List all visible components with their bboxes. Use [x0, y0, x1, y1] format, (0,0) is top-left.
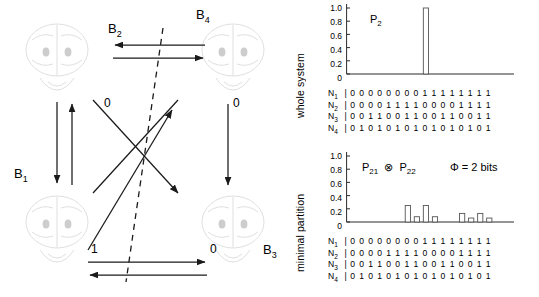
- state-row: N3|0011001100110011: [328, 259, 493, 271]
- state-row: N2|0000111100001111: [328, 248, 493, 260]
- state-row-bits: 0101010101010101: [348, 271, 493, 283]
- ytick-0-6: 0.6: [330, 180, 342, 189]
- node-label-b2-text: B: [108, 21, 117, 36]
- edge-label-top-right: 0: [233, 97, 240, 109]
- ytick-0: 0: [337, 74, 342, 83]
- bar: [414, 217, 419, 222]
- annotation-p2-sub: 2: [377, 19, 381, 28]
- ytick-0-4: 0.4: [330, 194, 342, 203]
- state-row-bits: 0101010101010101: [348, 123, 493, 135]
- annotation-p22-sub: 22: [407, 167, 416, 176]
- state-row: N3|0011001100110011: [328, 111, 493, 123]
- state-row: N2|0000111100001111: [328, 100, 493, 112]
- state-row: N1|0000000011111111: [328, 88, 493, 100]
- plots-panel: whole system 1.0 0.8 0.6 0.4 0.2 0 P2 N1…: [292, 0, 539, 297]
- bar: [478, 213, 483, 222]
- network-diagram-panel: B2 B4 B1 B3 0 0 1 0: [0, 0, 292, 297]
- node-label-b1-text: B: [14, 166, 23, 181]
- bar: [423, 8, 428, 74]
- ytick-0-8: 0.8: [330, 166, 342, 175]
- edge-label-bottom-right: 0: [210, 243, 217, 255]
- chart-minimal-partition-yticks: 1.0 0.8 0.6 0.4 0.2 0: [316, 156, 342, 228]
- state-row: N4|0101010101010101: [328, 123, 493, 135]
- state-row: N4|0101010101010101: [328, 271, 493, 283]
- node-label-b3-sub: 3: [272, 250, 277, 260]
- state-row-bits: 0000000011111111: [348, 236, 493, 248]
- node-label-b2-sub: 2: [117, 29, 122, 39]
- node-label-b4: B4: [196, 8, 210, 25]
- chart-minimal-partition-axis-title: minimal partition: [294, 160, 306, 272]
- node-label-b1-sub: 1: [23, 174, 28, 184]
- chart-whole-system-annotation: P2: [370, 14, 382, 28]
- ytick-1-0: 1.0: [330, 4, 342, 13]
- bar: [423, 206, 428, 223]
- state-table-minimal-partition: N1|0000000011111111N2|0000111100001111N3…: [328, 236, 493, 282]
- node-label-b3: B3: [263, 243, 277, 260]
- ytick-1-0: 1.0: [330, 152, 342, 161]
- edge-label-top-left: 0: [104, 97, 111, 109]
- bar: [432, 217, 437, 222]
- chart-whole-system: whole system 1.0 0.8 0.6 0.4 0.2 0 P2 N1…: [292, 0, 539, 148]
- chart-minimal-partition-annotation: P21 ⊗ P22: [362, 162, 416, 176]
- tensor-product-icon: ⊗: [384, 161, 393, 173]
- ytick-0-8: 0.8: [330, 18, 342, 27]
- ytick-0: 0: [337, 222, 342, 231]
- node-label-b4-text: B: [196, 7, 205, 22]
- node-label-b4-sub: 4: [205, 15, 210, 25]
- state-row-bits: 0000111100001111: [348, 100, 493, 112]
- bar: [460, 213, 465, 222]
- ytick-0-2: 0.2: [330, 208, 342, 217]
- annotation-p21-sub: 21: [369, 167, 378, 176]
- node-label-b1: B1: [14, 167, 28, 184]
- node-label-b2: B2: [108, 22, 122, 39]
- state-row-bits: 0000111100001111: [348, 248, 493, 260]
- ytick-0-2: 0.2: [330, 60, 342, 69]
- edge-label-bottom-left: 1: [91, 243, 98, 255]
- bar: [469, 218, 474, 222]
- bar: [405, 206, 410, 223]
- bar: [487, 218, 492, 222]
- ytick-0-4: 0.4: [330, 46, 342, 55]
- state-row-bits: 0011001100110011: [348, 111, 493, 123]
- state-row-bits: 0000000011111111: [348, 88, 493, 100]
- chart-whole-system-yticks: 1.0 0.8 0.6 0.4 0.2 0: [316, 8, 342, 80]
- chart-whole-system-axis-title: whole system: [294, 18, 306, 118]
- figure-root: B2 B4 B1 B3 0 0 1 0 whole system 1.0 0.8…: [0, 0, 539, 297]
- ytick-0-6: 0.6: [330, 32, 342, 41]
- state-row-label: N4: [328, 271, 343, 285]
- chart-minimal-partition: minimal partition 1.0 0.8 0.6 0.4 0.2 0 …: [292, 148, 539, 296]
- state-row: N1|0000000011111111: [328, 236, 493, 248]
- annotation-p22-text: P: [399, 161, 406, 173]
- node-label-b3-text: B: [263, 242, 272, 257]
- state-row-label: N4: [328, 123, 343, 137]
- phi-value-label: Φ = 2 bits: [450, 162, 498, 173]
- state-row-bits: 0011001100110011: [348, 259, 493, 271]
- network-edges: [0, 0, 292, 297]
- state-table-whole-system: N1|0000000011111111N2|0000111100001111N3…: [328, 88, 493, 134]
